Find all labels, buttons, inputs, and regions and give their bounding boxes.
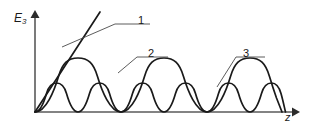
leader-line-2 xyxy=(118,57,168,73)
figure-container: E3 z 1 2 3 xyxy=(0,0,314,131)
curve-2-large-arches xyxy=(35,58,282,112)
y-axis-label-subscript: 3 xyxy=(22,17,26,26)
curve-label-1: 1 xyxy=(138,15,144,26)
y-axis-label-text: E xyxy=(14,11,22,25)
x-axis-label: z xyxy=(285,112,291,123)
x-axis-arrowhead xyxy=(292,108,300,117)
y-axis-label: E3 xyxy=(14,12,26,24)
curve-3-small-arches xyxy=(35,83,286,112)
leader-line-1 xyxy=(62,24,150,47)
curve-label-2: 2 xyxy=(148,48,154,59)
y-axis-arrowhead xyxy=(31,10,40,18)
curve-label-3: 3 xyxy=(243,48,249,59)
leader-line-3 xyxy=(217,57,265,87)
plot-canvas xyxy=(0,0,314,131)
